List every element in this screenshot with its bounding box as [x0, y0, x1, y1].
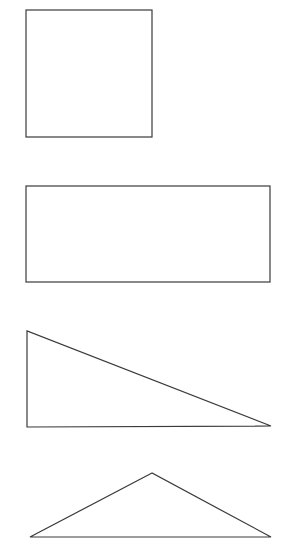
- shapes-diagram: [0, 0, 293, 557]
- square-shape: [26, 10, 152, 137]
- rectangle-shape: [26, 186, 270, 282]
- right-triangle-shape: [27, 331, 271, 427]
- isosceles-triangle-shape: [30, 473, 271, 537]
